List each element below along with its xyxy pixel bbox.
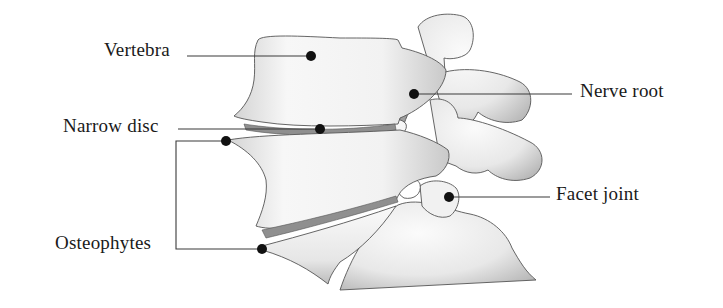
vertebra-label: Vertebra [104,40,170,59]
osteophyte-lower-marker-dot [257,244,267,254]
facet-joint-label: Facet joint [556,184,639,203]
narrow-disc-marker-dot [315,124,325,134]
osteophytes-label: Osteophytes [55,233,151,252]
narrow-disc-label: Narrow disc [63,116,159,135]
osteophyte-upper-marker-dot [221,136,231,146]
facet-joint-marker-dot [444,192,454,202]
vertebra-marker-dot [306,51,316,61]
upper-vertebral-body [234,36,446,126]
osteophytes-bracket-line [176,141,262,249]
nerve-root-label: Nerve root [580,81,664,100]
nerve-root-marker-dot [409,89,419,99]
spine-diagram: Vertebra Narrow disc Osteophytes Nerve r… [0,0,723,308]
